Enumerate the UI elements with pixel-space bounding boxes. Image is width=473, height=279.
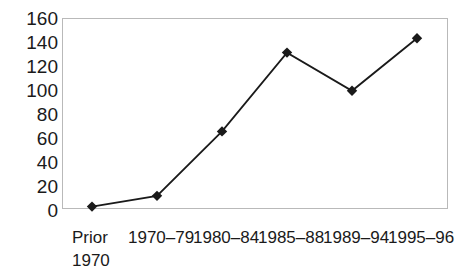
x-tick-line1: 1989–94 (323, 228, 389, 247)
data-point-marker (87, 201, 97, 211)
y-tick-label: 140 (0, 33, 58, 52)
y-tick-label: 100 (0, 81, 58, 100)
y-tick-label: 120 (0, 57, 58, 76)
x-tick-label-1970-79: 1970–79 (128, 226, 194, 249)
x-tick-line2: 1970 (72, 249, 110, 272)
x-tick-line1: 1970–79 (128, 228, 194, 247)
x-tick-label-1989-94: 1989–94 (323, 226, 389, 249)
x-tick-line1: 1985–88 (258, 228, 324, 247)
x-tick-label-prior-1970: Prior 1970 (72, 226, 110, 272)
y-tick-label: 160 (0, 9, 58, 28)
y-tick-label: 20 (0, 177, 58, 196)
data-line (92, 38, 417, 206)
data-markers (87, 33, 422, 212)
x-tick-line1: Prior (72, 228, 108, 247)
y-tick-label: 60 (0, 129, 58, 148)
plot-area (62, 18, 448, 209)
x-tick-line1: 1980–84 (193, 228, 259, 247)
y-tick-label: 80 (0, 105, 58, 124)
x-tick-label-1995-96: 1995–96 (388, 226, 454, 249)
y-tick-label: 40 (0, 153, 58, 172)
x-axis: Prior 1970 1970–79 1980–84 1985–88 1989–… (0, 226, 473, 279)
x-tick-label-1980-84: 1980–84 (193, 226, 259, 249)
line-chart: 160 140 120 100 80 60 40 20 0 Prior 1970… (0, 0, 473, 279)
x-tick-line1: 1995–96 (388, 228, 454, 247)
y-tick-label: 0 (0, 201, 58, 220)
x-tick-label-1985-88: 1985–88 (258, 226, 324, 249)
